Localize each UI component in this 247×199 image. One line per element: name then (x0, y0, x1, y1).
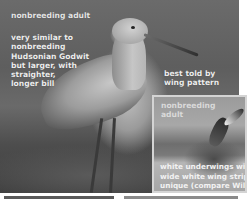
description-line: white underwings with (160, 162, 247, 172)
note-line: best told by (164, 69, 219, 78)
inset-flight-photo: nonbreeding adult white underwings with … (152, 95, 247, 193)
description-line: nonbreeding (11, 42, 89, 51)
description-line: wide white wing stripe (160, 172, 247, 182)
wing-pattern-note: best told by wing pattern (164, 69, 219, 88)
main-photo-title: nonbreeding adult (11, 11, 90, 20)
bird-leg (109, 118, 116, 193)
next-photo-edge-left (4, 196, 114, 199)
bird-head (112, 18, 148, 44)
bird-eye (131, 26, 135, 29)
description-line: Hudsonian Godwit (11, 52, 89, 61)
description-line: but larger, with (11, 61, 89, 70)
description-line: very similar to (11, 33, 89, 42)
description-line: unique (compare Willet (160, 181, 247, 191)
inset-photo-title: nonbreeding adult (161, 101, 215, 120)
description-line: longer bill (11, 79, 89, 88)
main-photo-description: very similar to nonbreeding Hudsonian Go… (11, 33, 89, 89)
bird-leg (90, 118, 103, 193)
note-line: wing pattern (164, 78, 219, 87)
title-line: adult (161, 110, 215, 119)
inset-bird-wing (222, 106, 246, 128)
next-photo-edge-right (124, 196, 238, 199)
inset-photo-description: white underwings with wide white wing st… (160, 162, 247, 191)
bird-bill (143, 33, 198, 57)
title-line: nonbreeding (161, 101, 215, 110)
